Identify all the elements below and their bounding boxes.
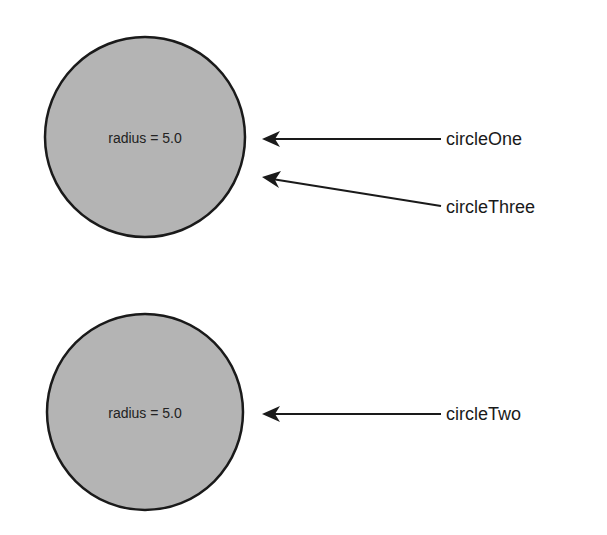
circle-object-bottom: radius = 5.0 <box>47 314 243 510</box>
reference-circle-three: circleThree <box>262 171 535 217</box>
reference-circle-one: circleOne <box>262 129 522 149</box>
variable-label-circle-one: circleOne <box>446 129 522 149</box>
reference-circle-two: circleTwo <box>262 404 521 424</box>
variable-label-circle-three: circleThree <box>446 197 535 217</box>
radius-label-top: radius = 5.0 <box>108 130 182 146</box>
arrow-line-icon <box>272 179 441 206</box>
variable-label-circle-two: circleTwo <box>446 404 521 424</box>
reference-diagram: radius = 5.0 radius = 5.0 circleOne circ… <box>0 0 607 535</box>
radius-label-bottom: radius = 5.0 <box>108 405 182 421</box>
circle-object-top: radius = 5.0 <box>45 37 245 237</box>
